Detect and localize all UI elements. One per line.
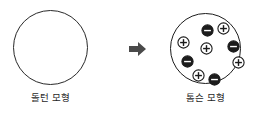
positive-charge-icon: [232, 56, 245, 69]
negative-charge-icon: [227, 40, 240, 53]
negative-charge-icon: [208, 73, 221, 86]
positive-charge-icon: [192, 69, 205, 82]
negative-charge-icon: [181, 55, 194, 68]
positive-charge-icon: [217, 22, 230, 35]
positive-charge-icon: [200, 42, 213, 55]
arrow-right-icon: [129, 41, 147, 57]
dalton-model-circle: [13, 10, 88, 85]
negative-charge-icon: [201, 24, 214, 37]
thomson-model-circle: [170, 13, 241, 84]
atomic-model-comparison-figure: 돌턴 모형 톰슨 모형: [0, 0, 262, 113]
dalton-model-caption: 돌턴 모형: [8, 90, 93, 104]
positive-charge-icon: [177, 36, 190, 49]
thomson-model-caption: 톰슨 모형: [163, 90, 248, 104]
